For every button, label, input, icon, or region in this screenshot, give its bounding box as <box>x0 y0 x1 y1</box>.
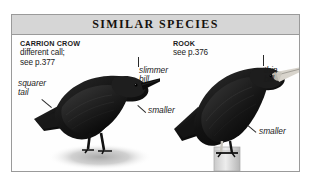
rook-detail-line1: see p.376 <box>173 49 208 58</box>
annotation-slimmer-bill-line2: bill <box>139 75 168 84</box>
annotation-slimmer-bill: slimmer bill <box>139 66 168 84</box>
species-label-carrion-crow: CARRION CROW different call; see p.377 <box>20 40 80 67</box>
leader-line-thin-bill <box>263 55 264 66</box>
annotation-smaller-crow: smaller <box>148 106 175 115</box>
species-label-rook: ROOK see p.376 <box>173 40 208 58</box>
carrion-crow-name: CARRION CROW <box>20 40 80 48</box>
leader-line-slimmer-bill <box>138 57 139 67</box>
similar-species-figure: SIMILAR SPECIES <box>0 0 312 185</box>
annotation-squarer-tail: squarer tail <box>18 79 46 97</box>
annotation-thin-bill: thin bill <box>264 66 277 84</box>
ground-shadow <box>48 144 152 170</box>
illustration-plate: CARRION CROW different call; see p.377 R… <box>12 35 299 171</box>
similar-species-panel: SIMILAR SPECIES <box>11 14 300 172</box>
rook-wing <box>201 77 268 142</box>
crow-eye <box>135 84 138 87</box>
annotation-smaller-crow-label: smaller <box>148 106 175 115</box>
annotation-smaller-rook-label: smaller <box>259 127 286 136</box>
panel-header: SIMILAR SPECIES <box>12 15 299 35</box>
carrion-crow-detail-line2: see p.377 <box>20 59 80 68</box>
annotation-thin-bill-line2: bill <box>264 75 277 84</box>
rook-perch <box>214 147 240 171</box>
rook-leg-back <box>221 141 222 153</box>
rook-name: ROOK <box>173 40 208 48</box>
annotation-squarer-tail-line2: tail <box>18 88 46 97</box>
carrion-crow-detail-line1: different call; <box>20 49 80 58</box>
rook-illustration <box>172 41 299 171</box>
annotation-smaller-rook: smaller <box>259 127 286 136</box>
panel-title: SIMILAR SPECIES <box>92 17 219 32</box>
